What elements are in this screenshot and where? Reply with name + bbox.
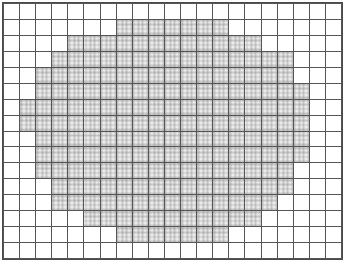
grid-cell-shaded[interactable] [245, 83, 261, 99]
grid-cell-shaded[interactable] [164, 115, 180, 131]
grid-cell-empty[interactable] [36, 227, 52, 243]
grid-cell-empty[interactable] [36, 35, 52, 51]
grid-cell-empty[interactable] [52, 211, 68, 227]
grid-cell-empty[interactable] [213, 4, 229, 20]
grid-cell-empty[interactable] [20, 4, 36, 20]
grid-cell-shaded[interactable] [261, 179, 277, 195]
grid-cell-shaded[interactable] [36, 147, 52, 163]
grid-cell-shaded[interactable] [181, 227, 197, 243]
grid-cell-empty[interactable] [293, 179, 309, 195]
grid-cell-empty[interactable] [325, 83, 341, 99]
grid-cell-empty[interactable] [293, 67, 309, 83]
grid-cell-empty[interactable] [148, 243, 164, 259]
grid-cell-shaded[interactable] [116, 19, 132, 35]
grid-cell-shaded[interactable] [36, 67, 52, 83]
grid-cell-shaded[interactable] [84, 211, 100, 227]
grid-cell-empty[interactable] [325, 211, 341, 227]
grid-cell-empty[interactable] [36, 51, 52, 67]
grid-cell-shaded[interactable] [52, 99, 68, 115]
grid-cell-empty[interactable] [68, 4, 84, 20]
grid-cell-empty[interactable] [20, 131, 36, 147]
grid-cell-shaded[interactable] [84, 131, 100, 147]
grid-cell-empty[interactable] [325, 179, 341, 195]
grid-cell-shaded[interactable] [197, 227, 213, 243]
grid-cell-shaded[interactable] [197, 51, 213, 67]
grid-cell-empty[interactable] [36, 195, 52, 211]
grid-cell-empty[interactable] [4, 99, 20, 115]
grid-cell-shaded[interactable] [277, 147, 293, 163]
grid-cell-shaded[interactable] [148, 163, 164, 179]
grid-cell-shaded[interactable] [197, 83, 213, 99]
grid-cell-shaded[interactable] [116, 147, 132, 163]
grid-cell-shaded[interactable] [148, 179, 164, 195]
grid-cell-shaded[interactable] [229, 147, 245, 163]
grid-cell-empty[interactable] [4, 147, 20, 163]
grid-cell-empty[interactable] [100, 4, 116, 20]
grid-cell-shaded[interactable] [68, 99, 84, 115]
grid-cell-empty[interactable] [213, 243, 229, 259]
grid-cell-shaded[interactable] [277, 115, 293, 131]
grid-cell-shaded[interactable] [261, 67, 277, 83]
grid-cell-shaded[interactable] [197, 35, 213, 51]
grid-cell-shaded[interactable] [181, 99, 197, 115]
grid-cell-empty[interactable] [20, 163, 36, 179]
grid-cell-shaded[interactable] [213, 195, 229, 211]
grid-cell-empty[interactable] [100, 19, 116, 35]
grid-cell-shaded[interactable] [84, 147, 100, 163]
grid-cell-shaded[interactable] [100, 115, 116, 131]
grid-cell-empty[interactable] [325, 163, 341, 179]
grid-cell-empty[interactable] [164, 4, 180, 20]
grid-cell-shaded[interactable] [213, 147, 229, 163]
grid-cell-empty[interactable] [245, 243, 261, 259]
grid-cell-empty[interactable] [293, 35, 309, 51]
grid-cell-shaded[interactable] [116, 99, 132, 115]
grid-cell-shaded[interactable] [261, 195, 277, 211]
grid-cell-empty[interactable] [325, 195, 341, 211]
grid-cell-shaded[interactable] [229, 179, 245, 195]
grid-cell-shaded[interactable] [148, 131, 164, 147]
grid-cell-shaded[interactable] [164, 131, 180, 147]
grid-cell-empty[interactable] [68, 211, 84, 227]
grid-cell-shaded[interactable] [116, 51, 132, 67]
grid-cell-shaded[interactable] [132, 99, 148, 115]
grid-cell-shaded[interactable] [84, 83, 100, 99]
grid-cell-shaded[interactable] [197, 99, 213, 115]
grid-cell-empty[interactable] [293, 195, 309, 211]
grid-cell-empty[interactable] [293, 51, 309, 67]
grid-cell-shaded[interactable] [293, 83, 309, 99]
grid-cell-shaded[interactable] [181, 147, 197, 163]
grid-cell-shaded[interactable] [84, 195, 100, 211]
grid-cell-shaded[interactable] [229, 211, 245, 227]
grid-cell-empty[interactable] [325, 131, 341, 147]
grid-cell-shaded[interactable] [229, 35, 245, 51]
grid-cell-empty[interactable] [325, 147, 341, 163]
grid-cell-empty[interactable] [309, 163, 325, 179]
grid-cell-shaded[interactable] [100, 99, 116, 115]
grid-cell-shaded[interactable] [52, 179, 68, 195]
grid-cell-shaded[interactable] [100, 67, 116, 83]
grid-cell-shaded[interactable] [148, 51, 164, 67]
grid-cell-empty[interactable] [229, 4, 245, 20]
grid-cell-shaded[interactable] [261, 83, 277, 99]
grid-cell-empty[interactable] [84, 4, 100, 20]
grid-cell-empty[interactable] [325, 115, 341, 131]
grid-cell-empty[interactable] [261, 211, 277, 227]
grid-cell-shaded[interactable] [100, 51, 116, 67]
grid-cell-shaded[interactable] [197, 179, 213, 195]
grid-cell-empty[interactable] [132, 4, 148, 20]
grid-cell-shaded[interactable] [245, 115, 261, 131]
grid-cell-shaded[interactable] [261, 115, 277, 131]
grid-cell-shaded[interactable] [132, 115, 148, 131]
grid-cell-empty[interactable] [4, 163, 20, 179]
grid-cell-shaded[interactable] [52, 195, 68, 211]
grid-cell-empty[interactable] [4, 115, 20, 131]
grid-cell-empty[interactable] [4, 195, 20, 211]
grid-cell-empty[interactable] [52, 4, 68, 20]
grid-cell-empty[interactable] [277, 35, 293, 51]
grid-cell-empty[interactable] [325, 99, 341, 115]
grid-cell-shaded[interactable] [84, 163, 100, 179]
grid-cell-shaded[interactable] [181, 67, 197, 83]
grid-cell-empty[interactable] [4, 35, 20, 51]
grid-cell-shaded[interactable] [213, 131, 229, 147]
grid-cell-empty[interactable] [309, 195, 325, 211]
